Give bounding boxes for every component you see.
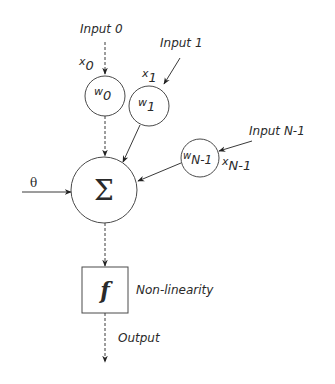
neuron-diagram: Input 0 x0 w0 Input 1 x1 w1 Input N-1 wN… (0, 0, 335, 384)
input-1-label: Input 1 (160, 36, 203, 50)
threshold-group: θ (22, 176, 71, 192)
input-n-1-group: Input N-1 wN-1 xN-1 (138, 124, 305, 181)
input-n-1-arrow (219, 141, 252, 151)
input-0-group: Input 0 x0 w0 (78, 22, 125, 156)
xn-1-label: xN-1 (221, 155, 251, 173)
x0-label: x0 (78, 55, 94, 73)
w1-to-sum-arrow (123, 125, 140, 162)
input-1-arrow (164, 58, 180, 84)
wn-1-to-sum-arrow (138, 163, 181, 181)
input-n-1-label: Input N-1 (249, 124, 305, 138)
x1-label: x1 (141, 67, 157, 85)
sigma-symbol: Σ (94, 174, 114, 207)
output-label: Output (118, 331, 161, 345)
input-0-label: Input 0 (80, 22, 123, 36)
theta-label: θ (30, 176, 37, 190)
nonlinearity-label: Non-linearity (136, 283, 214, 297)
